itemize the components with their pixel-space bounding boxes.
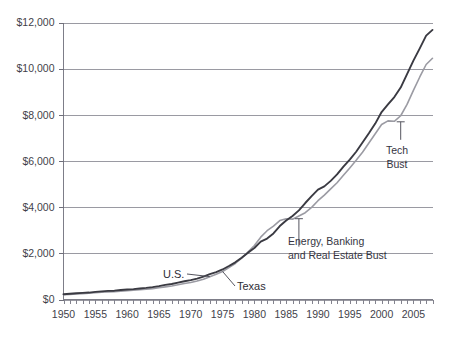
y-tick-label-6000: $6,000 xyxy=(22,155,54,167)
x-tick-label-1965: 1965 xyxy=(147,308,171,320)
x-tick-label-1985: 1985 xyxy=(274,308,298,320)
y-tick-label-2000: $2,000 xyxy=(22,247,54,259)
annotation-energy-banking-bust: Energy, Banking and Real Estate Bust xyxy=(288,235,387,261)
series-label-us: U.S. xyxy=(163,268,184,280)
series-label-us-text: U.S. xyxy=(163,268,184,280)
line-chart: $0$2,000$4,000$6,000$8,000$10,000$12,000… xyxy=(0,0,453,338)
leader-texas-label xyxy=(223,272,235,287)
x-tick-label-1950: 1950 xyxy=(52,308,76,320)
x-tick-label-1980: 1980 xyxy=(243,308,267,320)
series-label-texas: Texas xyxy=(237,280,266,292)
annotation-energy-bust-line1: Energy, Banking xyxy=(288,235,364,247)
annotation-tech-bust-line2: Bust xyxy=(386,158,407,170)
x-tick-label-1990: 1990 xyxy=(306,308,330,320)
x-tick-labels: 1950195519601965197019751980198519901995… xyxy=(52,308,425,320)
y-tick-label-8000: $8,000 xyxy=(22,109,54,121)
y-tick-label-12000: $12,000 xyxy=(17,16,55,28)
y-axis xyxy=(59,23,64,301)
annotation-tech-bust-line1: Tech xyxy=(386,144,408,156)
x-tick-label-1955: 1955 xyxy=(84,308,108,320)
x-tick-label-1960: 1960 xyxy=(115,308,139,320)
y-tick-labels: $0$2,000$4,000$6,000$8,000$10,000$12,000 xyxy=(17,16,55,305)
annotation-energy-bust-line2: and Real Estate Bust xyxy=(288,249,387,261)
series-label-texas-text: Texas xyxy=(237,280,266,292)
y-tick-label-0: $0 xyxy=(43,293,55,305)
x-tick-label-2000: 2000 xyxy=(370,308,394,320)
leader-tech-bust xyxy=(397,122,405,140)
y-tick-label-10000: $10,000 xyxy=(17,62,55,74)
chart-canvas: $0$2,000$4,000$6,000$8,000$10,000$12,000… xyxy=(0,0,453,338)
x-tick-label-1995: 1995 xyxy=(338,308,362,320)
x-tick-label-1975: 1975 xyxy=(211,308,235,320)
x-tick-label-1970: 1970 xyxy=(179,308,203,320)
x-tick-label-2005: 2005 xyxy=(402,308,426,320)
annotation-leaders xyxy=(187,122,405,286)
annotation-tech-bust: Tech Bust xyxy=(386,144,408,170)
y-tick-label-4000: $4,000 xyxy=(22,201,54,213)
